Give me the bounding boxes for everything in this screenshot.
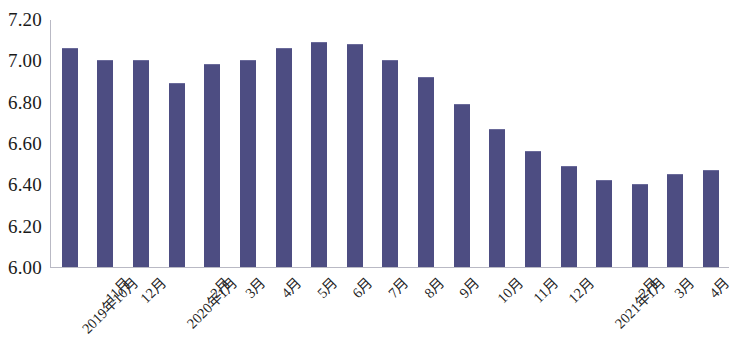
bar[interactable]	[347, 44, 363, 267]
bar-slot	[301, 20, 337, 267]
x-axis-slot: 4月	[693, 269, 729, 351]
bar[interactable]	[418, 77, 434, 267]
x-axis-slot: 11月	[515, 269, 551, 351]
bar-slot	[159, 20, 195, 267]
bar-slot	[444, 20, 480, 267]
bar[interactable]	[133, 60, 149, 267]
bar-slot	[195, 20, 231, 267]
x-axis-slot: 2月	[194, 269, 230, 351]
bar-slot	[551, 20, 587, 267]
bar-slot	[622, 20, 658, 267]
x-axis-slot: 8月	[408, 269, 444, 351]
bar[interactable]	[382, 60, 398, 267]
bar[interactable]	[62, 48, 78, 267]
x-axis-slot: 5月	[301, 269, 337, 351]
x-axis-slot: 10月	[479, 269, 515, 351]
bar[interactable]	[561, 166, 577, 267]
bar[interactable]	[204, 64, 220, 267]
bar-slot	[230, 20, 266, 267]
bar[interactable]	[169, 83, 185, 267]
bar[interactable]	[525, 151, 541, 267]
bar[interactable]	[632, 184, 648, 267]
bar-slot	[480, 20, 516, 267]
bar-slot	[266, 20, 302, 267]
x-axis-slot: 2021年1月	[586, 269, 622, 351]
y-axis-tick-label: 7.20	[8, 9, 42, 31]
bar-slot	[408, 20, 444, 267]
x-axis-slot: 12月	[122, 269, 158, 351]
bar-slot	[515, 20, 551, 267]
x-axis-slot: 6月	[337, 269, 373, 351]
y-axis-tick-label: 6.40	[8, 174, 42, 196]
y-axis-tick-label: 6.00	[8, 257, 42, 279]
bar-slot	[586, 20, 622, 267]
x-axis-slot: 11月	[87, 269, 123, 351]
x-axis-slot: 3月	[229, 269, 265, 351]
x-axis-slot: 2019年10月	[51, 269, 87, 351]
y-axis-tick-label: 7.00	[8, 50, 42, 72]
x-axis-slot: 3月	[658, 269, 694, 351]
x-axis-slot: 12月	[551, 269, 587, 351]
bar[interactable]	[276, 48, 292, 267]
x-axis-slot: 4月	[265, 269, 301, 351]
bar-slot	[337, 20, 373, 267]
y-axis: 7.207.006.806.606.406.206.00	[0, 0, 46, 351]
bar-slot	[658, 20, 694, 267]
bar-slot	[88, 20, 124, 267]
bar[interactable]	[454, 104, 470, 267]
bar-chart: 7.207.006.806.606.406.206.00 2019年10月11月…	[0, 0, 733, 351]
x-axis-slot: 9月	[444, 269, 480, 351]
bar[interactable]	[489, 129, 505, 267]
bar-slot	[52, 20, 88, 267]
x-axis: 2019年10月11月12月2020年1月2月3月4月5月6月7月8月9月10月…	[51, 269, 729, 351]
x-axis-slot: 7月	[372, 269, 408, 351]
y-axis-tick-label: 6.20	[8, 216, 42, 238]
bar[interactable]	[311, 42, 327, 267]
y-axis-tick-label: 6.60	[8, 133, 42, 155]
bar[interactable]	[240, 60, 256, 267]
x-axis-tick-label: 4月	[703, 272, 733, 302]
bar[interactable]	[703, 170, 719, 267]
y-axis-tick-label: 6.80	[8, 92, 42, 114]
bar-slot	[693, 20, 729, 267]
bar[interactable]	[596, 180, 612, 267]
bar-slot	[123, 20, 159, 267]
bar[interactable]	[667, 174, 683, 267]
plot-area	[50, 20, 729, 268]
bar[interactable]	[97, 60, 113, 267]
bar-series	[52, 20, 729, 267]
bar-slot	[373, 20, 409, 267]
x-axis-slot: 2月	[622, 269, 658, 351]
x-axis-slot: 2020年1月	[158, 269, 194, 351]
